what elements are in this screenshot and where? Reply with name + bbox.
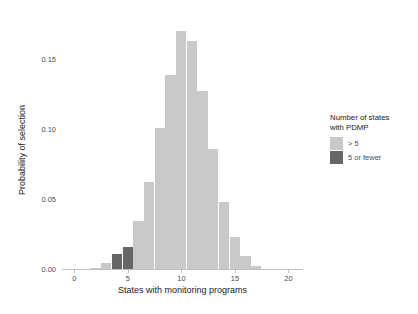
legend: Number of states with PDMP > 55 or fewer [330,113,416,165]
histogram-bar [187,41,197,269]
legend-swatch-icon [330,151,343,164]
legend-swatch-icon [330,137,343,150]
x-axis-title: States with monitoring programs [68,285,297,295]
y-axis-tick-label: 0.05 [28,195,56,204]
y-axis-title: Probability of selection [17,80,27,220]
x-axis-line [62,269,303,270]
y-axis-tick-label: 0.10 [28,125,56,134]
legend-entries: > 55 or fewer [330,137,416,165]
legend-entry: > 5 [330,137,416,151]
bars-layer [68,20,297,269]
legend-entry: 5 or fewer [330,151,416,165]
x-axis-tick-label: 5 [126,274,130,283]
plot-area [68,20,297,269]
y-axis-tick-label: 0.15 [28,55,56,64]
x-axis-tick-label: 10 [177,274,185,283]
histogram-chart: 0.000.050.100.15 Probability of selectio… [0,0,418,314]
histogram-bar [165,75,175,269]
histogram-bar [144,182,154,269]
histogram-bar [112,254,122,269]
histogram-bar [133,221,143,269]
x-axis-tick-label: 0 [72,274,76,283]
histogram-bar [176,31,186,269]
legend-title: Number of states with PDMP [330,113,416,133]
y-axis-tick-label: 0.00 [28,265,56,274]
x-axis-tick-mark [288,270,289,273]
histogram-bar [123,247,133,269]
x-axis-tick-label: 15 [231,274,239,283]
histogram-bar [155,128,165,269]
x-axis-tick-mark [128,270,129,273]
x-axis-tick-mark [74,270,75,273]
x-axis-tick-mark [181,270,182,273]
histogram-bar [208,149,218,269]
x-axis-tick-mark [235,270,236,273]
histogram-bar [219,202,229,269]
histogram-bar [230,237,240,269]
legend-label: 5 or fewer [348,153,381,162]
legend-label: > 5 [348,139,359,148]
x-axis-tick-label: 20 [284,274,292,283]
histogram-bar [197,91,207,269]
histogram-bar [240,256,250,269]
